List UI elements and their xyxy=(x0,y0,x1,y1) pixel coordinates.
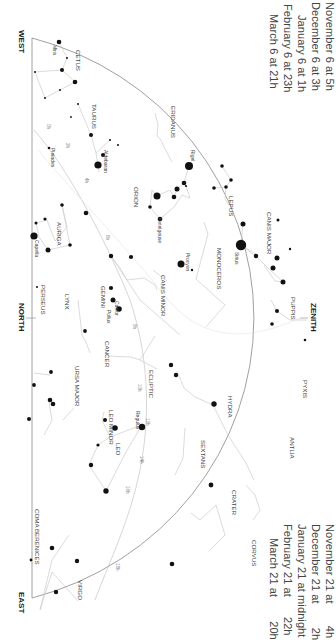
svg-text:2h: 2h xyxy=(65,143,70,149)
svg-text:10h: 10h xyxy=(137,384,142,392)
constellation-corvus: CORVUS xyxy=(251,540,258,566)
constellation-lynx: LYNX xyxy=(64,294,71,310)
constellation-cetus: CETUS xyxy=(75,50,82,71)
constellation-canis-major: CANIS MAJOR xyxy=(266,212,273,254)
star-pleiades: Pleiades xyxy=(50,148,56,167)
constellation-coma-berenices: COMA BERENICES xyxy=(34,509,41,565)
constellation-virgo: VIRGO xyxy=(77,580,84,600)
constellation-cancer: CANCER xyxy=(104,341,111,367)
constellation-crater: CRATER xyxy=(231,490,238,515)
constellation-gemini: GEMINI xyxy=(100,286,107,308)
caption-top-row-1: November 6 at 5h xyxy=(324,2,336,91)
constellation-lepus: LEPUS xyxy=(228,196,235,216)
constellation-puppis: PUPPIS xyxy=(290,297,297,320)
caption-bottom-row-2: December 21 at2h xyxy=(310,524,322,640)
star-castor: Castor xyxy=(114,301,120,316)
caption-bottom-row-4: February 21 at22h xyxy=(282,524,294,636)
svg-text:4h: 4h xyxy=(84,178,89,184)
caption-bottom-row-1: November 21 at4h xyxy=(324,524,336,638)
star-procyon: Procyon xyxy=(185,253,191,271)
ecliptic-line xyxy=(34,130,147,600)
caption-top-row-5: March 6 at 21h xyxy=(268,14,280,89)
constellation-leo: LEO xyxy=(115,443,122,455)
constellation-sextans: SEXTANS xyxy=(200,440,207,468)
star-aldebaran: Aldebaran xyxy=(103,150,109,173)
constellation-canis-minor: CANIS MINOR xyxy=(160,275,167,316)
constellation-ursa-major: URSA MAJOR xyxy=(74,366,81,406)
star-sirius: Sirius xyxy=(234,252,240,265)
constellation-auriga: AURIGA xyxy=(56,222,63,246)
svg-text:14h: 14h xyxy=(139,456,144,464)
svg-text:6h: 6h xyxy=(105,235,110,241)
direction-east: EAST xyxy=(17,592,26,613)
milky-way-edge xyxy=(38,150,300,334)
svg-text:0h: 0h xyxy=(46,124,51,130)
star-rigel: Rigel xyxy=(190,150,196,161)
svg-text:8h: 8h xyxy=(132,324,137,330)
svg-text:18h: 18h xyxy=(115,563,120,571)
constellation-hydra: HYDRA xyxy=(227,396,234,418)
direction-north: NORTH xyxy=(17,303,26,331)
constellation-orion: ORION xyxy=(133,187,140,207)
svg-text:12h: 12h xyxy=(145,418,150,426)
star-regulus: Regulus xyxy=(135,411,141,429)
caption-bottom-row-3: January 21 at midnight xyxy=(296,524,308,638)
caption-top-row-4: February 6 at 23h xyxy=(282,4,294,93)
svg-text:16h: 16h xyxy=(125,486,130,494)
direction-west: WEST xyxy=(17,30,26,53)
direction-zenith: ZENITH xyxy=(309,303,318,332)
constellation-taurus: TAURUS xyxy=(91,104,98,129)
caption-top-row-3: January 6 at 1h xyxy=(296,15,308,92)
sky-dome-arc xyxy=(32,38,254,598)
star-capella: Capella xyxy=(34,240,40,257)
constellation-eridanus: ERIDANUS xyxy=(170,106,177,138)
ecliptic-label: ECLIPTIC xyxy=(148,370,155,398)
constellation-perseus: PERSEUS xyxy=(40,285,47,315)
caption-bottom-row-5: March 21 at20h xyxy=(268,538,280,640)
constellation-leo-minor: LEO MINOR xyxy=(108,410,115,445)
star-pollux: Pollux xyxy=(106,310,112,324)
star-mira: Mira xyxy=(52,45,58,55)
star-betelgeuse: Betelgeuse xyxy=(157,218,163,243)
stars xyxy=(27,40,306,595)
constellation-monoceros: MONOCEROS xyxy=(216,248,223,289)
constellation-pyxis: PYXIS xyxy=(302,380,309,398)
caption-top-row-2: December 6 at 3h xyxy=(310,2,322,91)
constellation-antlia: ANTLIA xyxy=(289,437,296,459)
